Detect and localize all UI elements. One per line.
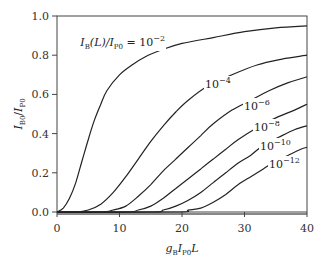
- y-axis-ticks: 0.00.20.40.60.81.0: [32, 10, 58, 219]
- y-tick-label: 1.0: [32, 10, 50, 23]
- y-tick-label: 0.0: [32, 206, 50, 219]
- x-axis-label: gBIP0L: [165, 242, 198, 257]
- chart: 010203040 0.00.20.40.60.81.0 IB(L)/IP0 =…: [0, 0, 326, 267]
- y-tick-label: 0.4: [32, 128, 50, 141]
- x-tick-label: 40: [300, 222, 314, 235]
- y-axis-label: IB0/IP0: [12, 98, 27, 130]
- x-axis-ticks: 010203040: [54, 212, 315, 235]
- curve-labels: IB(L)/IP0 = 10−210−410−610−810−1010−12: [78, 34, 301, 171]
- y-tick-label: 0.6: [32, 88, 50, 101]
- x-tick-label: 20: [175, 222, 189, 235]
- x-tick-label: 0: [54, 222, 61, 235]
- x-tick-label: 30: [238, 222, 252, 235]
- curve-label: IB(L)/IP0 = 10−2: [79, 34, 165, 51]
- y-tick-label: 0.2: [32, 167, 50, 180]
- x-tick-label: 10: [113, 222, 127, 235]
- y-tick-label: 0.8: [32, 49, 50, 62]
